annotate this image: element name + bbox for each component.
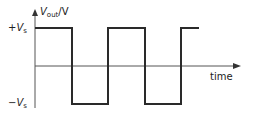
square-wave-diagram bbox=[0, 0, 254, 114]
negative-level-label: −Vs bbox=[8, 97, 27, 110]
y-axis-subscript: out bbox=[47, 11, 58, 19]
y-axis-arrow-icon bbox=[32, 9, 38, 16]
negative-subscript: s bbox=[23, 102, 27, 110]
y-axis-unit: /V bbox=[58, 6, 68, 17]
x-axis-arrow-icon bbox=[233, 63, 241, 69]
positive-subscript: s bbox=[23, 27, 27, 35]
y-axis-label: Vout/V bbox=[40, 6, 69, 19]
y-axis-symbol: V bbox=[40, 6, 47, 17]
positive-level-label: +Vs bbox=[8, 22, 27, 35]
x-axis-label: time bbox=[210, 71, 233, 82]
